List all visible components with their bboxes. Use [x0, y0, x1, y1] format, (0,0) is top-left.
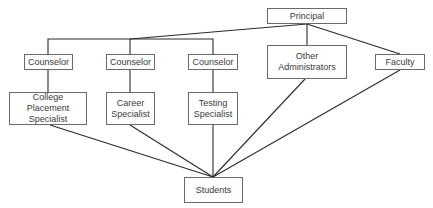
node-label-line1: College Placement: [12, 92, 84, 114]
node-label: Faculty: [385, 57, 414, 68]
node-label-line1: Testing: [199, 98, 228, 109]
node-label-line2: Specialist: [29, 114, 68, 125]
node-career-specialist: Career Specialist: [106, 92, 155, 125]
node-principal: Principal: [267, 8, 347, 24]
node-label-line2: Specialist: [194, 109, 233, 120]
node-label: Principal: [290, 11, 325, 22]
node-counselor-3: Counselor: [188, 54, 238, 70]
edge-career-students: [130, 125, 213, 177]
node-other-administrators: Other Administrators: [267, 45, 347, 79]
edge-faculty-students: [213, 70, 400, 177]
node-counselor-2: Counselor: [106, 54, 155, 70]
node-label-line2: Specialist: [111, 109, 150, 120]
node-counselor-1: Counselor: [24, 54, 73, 70]
node-label: Counselor: [28, 57, 69, 68]
node-label: Students: [196, 185, 232, 196]
node-students: Students: [184, 177, 243, 203]
node-testing-specialist: Testing Specialist: [188, 92, 238, 125]
node-label-line2: Administrators: [278, 62, 336, 73]
edge-principal-bus: [130, 24, 307, 39]
node-label: Counselor: [110, 57, 151, 68]
node-faculty: Faculty: [375, 54, 425, 70]
node-college-placement-specialist: College Placement Specialist: [9, 92, 87, 125]
edge-college-students: [50, 125, 213, 177]
node-label-line1: Career: [117, 98, 145, 109]
node-label-line1: Other: [296, 51, 319, 62]
node-label: Counselor: [192, 57, 233, 68]
